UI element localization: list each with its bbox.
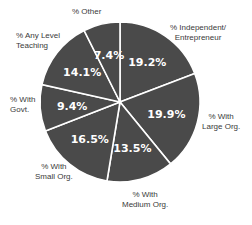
slice-value-label: 19.9% (147, 108, 185, 121)
slice-value-label: 14.1% (63, 66, 101, 79)
slice-value-label: 7.4% (94, 49, 125, 62)
label-other: % Other (72, 7, 101, 17)
label-independent: % Independent/ Entrepreneur (170, 23, 226, 43)
label-large-org: % With Large Org. (202, 112, 240, 132)
label-medium-org: % With Medium Org. (122, 190, 168, 210)
label-govt: % With Govt. (10, 95, 35, 115)
slice-value-label: 13.5% (113, 142, 151, 155)
slice-value-label: 9.4% (57, 100, 88, 113)
label-small-org: % With Small Org. (35, 162, 73, 182)
slice-value-label: 19.2% (128, 56, 166, 69)
label-teaching: % Any Level Teaching (16, 31, 60, 51)
slice-value-label: 16.5% (71, 133, 109, 146)
